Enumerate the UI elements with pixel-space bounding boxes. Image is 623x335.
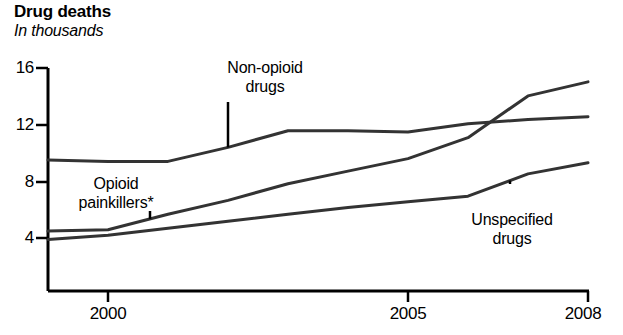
series-line-opioid-painkillers <box>48 82 588 231</box>
plot-area <box>0 0 623 335</box>
annotation-leaders <box>150 102 510 219</box>
series-line-non-opioid-drugs <box>48 117 588 162</box>
series-line-unspecified-drugs <box>48 163 588 240</box>
series-lines <box>48 82 588 240</box>
axes <box>36 68 589 302</box>
drug-deaths-line-chart: Drug deaths In thousands 16 12 8 4 2000 … <box>0 0 623 335</box>
